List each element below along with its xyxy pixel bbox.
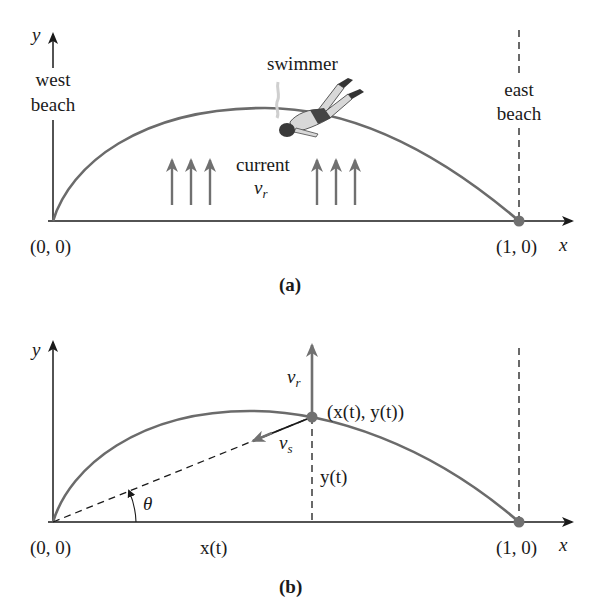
theta-arc [129, 491, 136, 522]
vr-label: vr [287, 367, 301, 389]
vs-label: vs [279, 433, 293, 455]
panel-b-x-label: x [559, 535, 567, 554]
panel-a-caption: (a) [279, 275, 301, 294]
swimmer-position-point [307, 412, 318, 423]
current-velocity-subscript: r [262, 186, 267, 201]
panel-a-y-label: y [32, 25, 40, 44]
panel-b-y-label: y [32, 340, 40, 359]
theta-label: θ [143, 494, 152, 513]
swimmer-position-label: (x(t), y(t)) [327, 402, 404, 421]
panel-a-x-label: x [559, 235, 567, 254]
vr-subscript: r [295, 375, 300, 390]
swimmer-label: swimmer [267, 54, 338, 73]
panel-b-origin-label: (0, 0) [30, 538, 71, 557]
current-arrows-right [317, 160, 355, 205]
panel-a-end-point [514, 216, 525, 227]
west-beach-label-line2: beach [22, 95, 84, 114]
panel-a-end-point-label: (1, 0) [496, 237, 537, 256]
panel-b-caption: (b) [279, 577, 302, 596]
west-beach-label-line1: west [28, 70, 78, 89]
swimmer-icon [277, 78, 364, 137]
vs-arrowhead-segment [253, 433, 272, 441]
y-of-t-label: y(t) [320, 467, 347, 486]
current-label: current [236, 155, 290, 174]
panel-a-origin-label: (0, 0) [30, 237, 71, 256]
east-beach-label-line1: east [492, 80, 546, 99]
vs-subscript: s [287, 441, 292, 456]
panel-b-end-point-label: (1, 0) [496, 538, 537, 557]
current-velocity-label: vr [254, 178, 268, 200]
current-arrows-left [172, 160, 210, 205]
panel-b-end-point [514, 517, 525, 528]
east-beach-label-line2: beach [486, 104, 552, 123]
x-of-t-label: x(t) [200, 538, 227, 557]
